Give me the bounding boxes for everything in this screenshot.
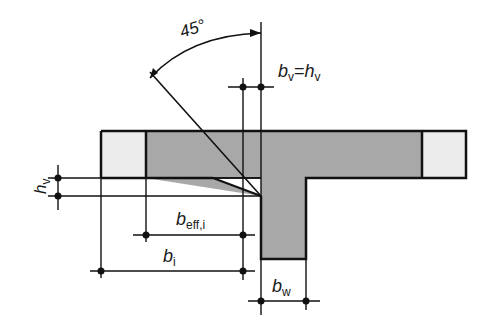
effective-section (146, 131, 422, 259)
arrowhead-icon (250, 29, 261, 37)
angle-arc (150, 33, 261, 78)
beff-label: beff,i (176, 209, 205, 232)
hv-label: hv (31, 179, 53, 194)
bw-label: bw (272, 276, 291, 299)
bi-label: bi (163, 246, 176, 269)
right-flange-end (422, 131, 466, 178)
left-flange-end (101, 131, 146, 178)
t-beam-section (101, 131, 466, 259)
diagram-canvas: 45° bv=hv hv beff,i bi bw (0, 0, 489, 335)
bv-hv-label: bv=hv (278, 61, 321, 84)
angle-label: 45° (177, 16, 208, 42)
t-beam-effective-width-diagram: 45° bv=hv hv beff,i bi bw (0, 0, 489, 335)
